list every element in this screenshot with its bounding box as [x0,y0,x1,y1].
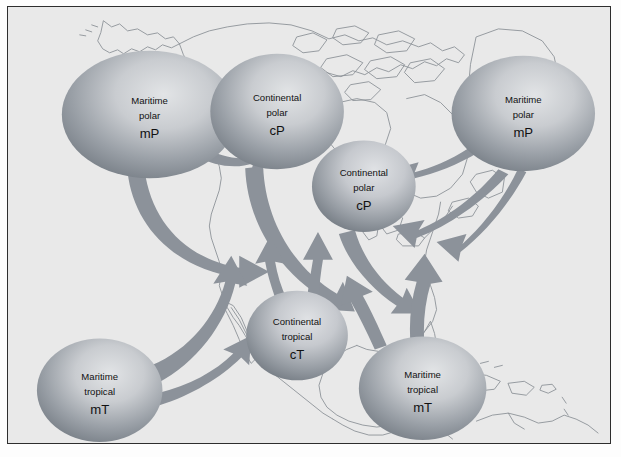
air-mass-continental-polar-central[interactable]: Continental polar cP [312,140,416,232]
air-mass-label-line2: polar [266,107,288,118]
air-mass-maritime-tropical-east[interactable]: Maritime tropical mT [359,336,487,440]
air-mass-label-line1: Maritime [505,94,542,105]
air-mass-label-line2: tropical [282,331,313,342]
air-mass-label-line1: Continental [273,316,321,327]
air-mass-label-line1: Maritime [81,371,118,382]
air-mass-maritime-polar-east[interactable]: Maritime polar mP [452,56,596,171]
air-mass-code: cP [356,198,372,213]
air-mass-label-line2: polar [353,182,375,193]
air-mass-code: mP [513,125,533,140]
air-mass-label-line2: tropical [84,386,115,397]
air-mass-label-line1: Maritime [404,369,441,380]
air-mass-continental-tropical[interactable]: Continental tropical cT [246,291,348,381]
air-mass-label-line2: polar [139,110,161,121]
air-mass-code: mT [90,402,109,417]
air-mass-continental-polar-north[interactable]: Continental polar cP [210,54,344,169]
air-mass-diagram-figure: Maritime polar mP Continental polar cP M… [0,0,621,457]
air-mass-label-line1: Maritime [131,95,168,106]
air-mass-label-line1: Continental [253,92,301,103]
air-mass-label-line2: tropical [407,384,438,395]
air-mass-code: cP [269,123,285,138]
air-mass-code: mT [413,400,432,415]
air-mass-code: cT [290,347,305,362]
air-mass-code: mP [140,126,160,141]
map-frame: Maritime polar mP Continental polar cP M… [7,6,611,444]
air-mass-maritime-tropical-west[interactable]: Maritime tropical mT [37,338,163,442]
air-mass-label-line2: polar [513,109,535,120]
air-mass-label-line1: Continental [340,167,388,178]
north-america-air-mass-map: Maritime polar mP Continental polar cP M… [8,7,610,443]
